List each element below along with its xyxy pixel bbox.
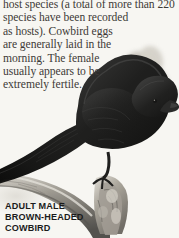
body-text-block: host species (a total of more than 220 s… xyxy=(3,0,179,92)
body-text-line: as hosts). Cowbird eggs xyxy=(3,25,179,38)
caption-line: BROWN-HEADED xyxy=(5,212,84,223)
body-text-line: host species (a total of more than 220 xyxy=(3,0,179,11)
illustrated-field-guide-page: host species (a total of more than 220 s… xyxy=(0,0,179,238)
body-text-line: morning. The female xyxy=(3,52,179,65)
body-text-line: species have been recorded xyxy=(3,11,179,24)
body-text-line: extremely fertile. xyxy=(3,78,179,91)
caption-line: COWBIRD xyxy=(5,223,84,234)
body-text-line: usually appears to be xyxy=(3,65,179,78)
figure-caption: ADULT MALE BROWN-HEADED COWBIRD xyxy=(5,201,84,235)
caption-line: ADULT MALE xyxy=(5,201,84,212)
body-text-line: are generally laid in the xyxy=(3,38,179,51)
